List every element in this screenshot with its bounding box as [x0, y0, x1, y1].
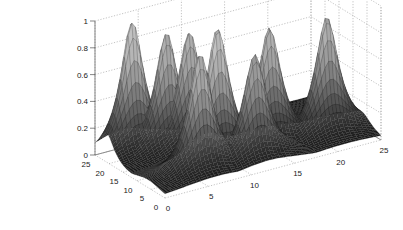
x-tick-label: 0 — [166, 204, 171, 213]
x-tick-label: 5 — [209, 192, 214, 201]
x-tick-label: 10 — [250, 181, 259, 190]
surface-plot: 00.20.40.60.81 0510152025 0510152025 — [0, 0, 403, 230]
y-tick-label: 20 — [96, 169, 105, 178]
z-tick-label: 0 — [84, 151, 89, 160]
z-tick-label: 0.4 — [77, 97, 89, 106]
x-tick-label: 25 — [380, 146, 389, 155]
z-tick-label: 0.8 — [77, 44, 89, 53]
y-tick-label: 0 — [154, 203, 159, 212]
y-tick-label: 25 — [82, 160, 91, 169]
z-gridline — [95, 0, 381, 21]
x-tick-label: 15 — [293, 169, 302, 178]
z-tick-label: 0.6 — [77, 71, 89, 80]
y-tick-label: 10 — [124, 186, 133, 195]
y-tick-label: 5 — [140, 194, 145, 203]
z-tick-label: 1 — [84, 17, 89, 26]
y-tick-label: 15 — [110, 177, 119, 186]
z-axis-tick-labels: 00.20.40.60.81 — [77, 17, 95, 160]
x-tick-label: 20 — [336, 158, 345, 167]
surface-mesh — [95, 18, 381, 193]
z-tick-label: 0.2 — [77, 124, 89, 133]
